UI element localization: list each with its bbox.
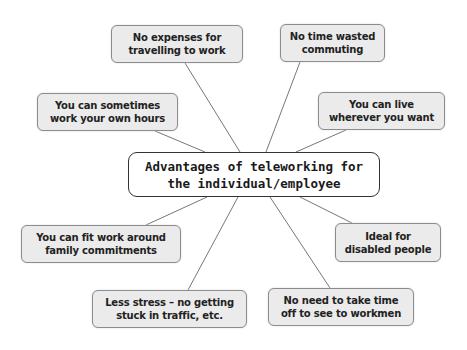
connector-commuting [266,62,300,152]
central-topic: Advantages of teleworking for the indivi… [128,152,380,197]
connector-own-hours [155,131,205,152]
node-no-time-wasted: No time wasted commuting [280,24,385,62]
connector-family [146,197,207,225]
connector-expenses [185,63,240,152]
node-live-anywhere: You can live wherever you want [318,92,445,130]
connector-live-anywhere [296,130,346,152]
node-no-expenses: No expenses for travelling to work [111,25,243,63]
connector-workmen [270,197,330,288]
node-family-commitments: You can fit work around family commitmen… [21,225,181,263]
node-disabled-people: Ideal for disabled people [335,223,441,262]
node-less-stress: Less stress – no getting stuck in traffi… [92,290,247,328]
connector-stress [188,197,238,290]
node-own-hours: You can sometimes work your own hours [37,93,178,131]
node-workmen: No need to take time off to see to workm… [268,288,414,326]
connector-disabled [300,197,352,223]
